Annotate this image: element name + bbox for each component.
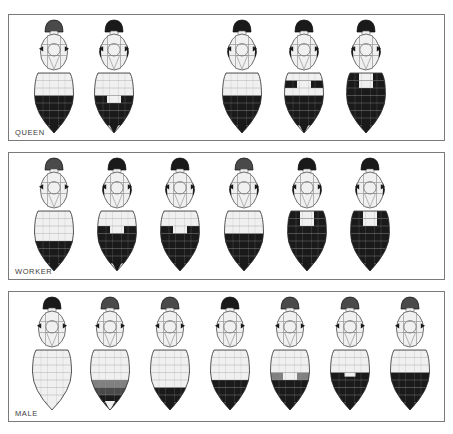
bee-diagram-male-3 [147, 296, 193, 414]
caste-label-worker: WORKER [15, 267, 52, 276]
bee-diagram-worker-6 [347, 157, 393, 275]
bee-diagram-worker-5 [284, 157, 330, 275]
caste-row-worker: WORKER [8, 152, 445, 280]
caste-label-queen: QUEEN [15, 128, 45, 137]
bee-diagram-queen-1 [31, 19, 77, 137]
male-bee-strip [9, 292, 444, 407]
bee-diagram-worker-3 [157, 157, 203, 275]
bee-diagram-male-1 [29, 296, 75, 414]
bee-pattern-plate: QUEEN WORKER MALE [0, 0, 453, 434]
caste-row-male: MALE [8, 291, 445, 422]
bee-diagram-worker-1 [31, 157, 77, 275]
bee-diagram-male-4 [207, 296, 253, 414]
bee-diagram-male-5 [267, 296, 313, 414]
bee-diagram-queen-2 [91, 19, 137, 137]
caste-label-male: MALE [15, 409, 38, 418]
caste-row-queen: QUEEN [8, 14, 445, 141]
bee-diagram-male-2 [87, 296, 133, 414]
bee-diagram-male-7 [387, 296, 433, 414]
queen-bee-strip [9, 15, 444, 126]
bee-diagram-worker-4 [221, 157, 267, 275]
bee-diagram-male-6 [327, 296, 373, 414]
bee-diagram-queen-5 [343, 19, 389, 137]
worker-bee-strip [9, 153, 444, 265]
bee-diagram-queen-3 [219, 19, 265, 137]
bee-diagram-queen-4 [281, 19, 327, 137]
bee-diagram-worker-2 [94, 157, 140, 275]
